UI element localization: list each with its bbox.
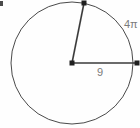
arc-length-label: 4π (124, 19, 138, 30)
corner-mark (0, 1, 3, 6)
circle-diagram: 4π 9 (0, 0, 140, 128)
arc-endpoint-top-dot (82, 1, 87, 6)
radius-length-label: 9 (97, 67, 103, 78)
arc-endpoint-right-dot (135, 61, 140, 66)
center-vertex-dot (70, 61, 75, 66)
diagram-canvas (0, 0, 140, 128)
slanted-radius-line (72, 3, 84, 63)
